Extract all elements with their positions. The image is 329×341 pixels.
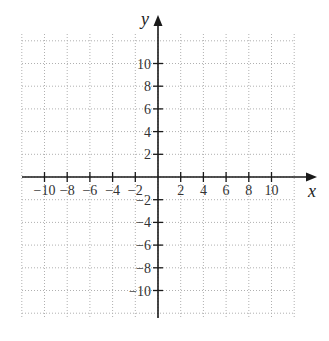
y-tick-label: 6 [144,102,151,117]
y-tick-label: 4 [144,125,151,140]
y-axis-label: y [139,9,149,29]
x-axis-ticks: −10−8−6−4−2246810 [34,172,279,198]
x-tick-label: 10 [265,183,279,198]
x-tick-label: −4 [105,183,120,198]
x-tick-label: 4 [200,183,207,198]
x-tick-label: −10 [34,183,56,198]
y-axis-arrow-icon [154,15,163,26]
y-tick-label: −2 [136,193,151,208]
y-tick-label: −4 [136,215,151,230]
y-tick-label: −8 [136,261,151,276]
x-tick-label: 6 [223,183,230,198]
y-tick-label: 8 [144,79,151,94]
x-axis-label: x [307,181,316,201]
coordinate-plane: −10−8−6−4−2246810 108642−2−4−6−8−10 x y [0,0,329,341]
y-tick-label: −6 [136,238,151,253]
x-tick-label: 2 [177,183,184,198]
x-tick-label: −8 [60,183,75,198]
axes [22,15,317,318]
y-tick-label: 2 [144,147,151,162]
y-tick-label: 10 [137,57,151,72]
y-tick-label: −10 [129,284,151,299]
x-tick-label: 8 [245,183,252,198]
x-tick-label: −6 [82,183,97,198]
